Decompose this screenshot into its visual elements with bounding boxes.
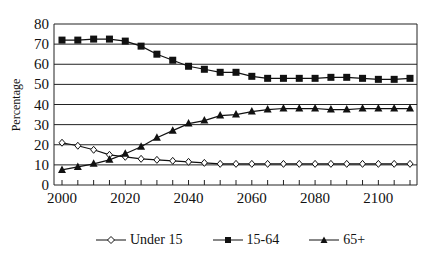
data-point [154, 156, 160, 163]
data-point [264, 75, 271, 82]
x-tick-label: 2080 [300, 190, 330, 206]
data-point [344, 160, 350, 167]
data-point [296, 160, 302, 167]
y-axis-tick-labels: 01020304050607080 [34, 16, 49, 193]
data-point [359, 104, 367, 112]
data-point [74, 37, 81, 44]
data-point [122, 38, 129, 45]
data-point [106, 36, 113, 43]
data-point [374, 104, 382, 112]
data-point [59, 37, 66, 44]
data-point [233, 69, 240, 76]
data-point [359, 75, 366, 82]
data-point [328, 160, 334, 167]
x-axis-tick-labels: 200020202040206020802100 [47, 190, 393, 206]
y-axis-title: Percentage [9, 79, 23, 132]
x-tick-label: 2040 [174, 190, 204, 206]
data-point [137, 142, 145, 150]
data-point [407, 75, 414, 82]
line-chart: 01020304050607080 2000202020402060208021… [0, 0, 432, 230]
y-tick-label: 30 [34, 117, 49, 133]
data-point [375, 160, 381, 167]
y-tick-label: 70 [34, 36, 49, 52]
data-point [296, 75, 303, 82]
data-point [407, 160, 413, 167]
legend-item-under-15: Under 15 [96, 232, 183, 248]
data-point [391, 160, 397, 167]
data-point [295, 104, 303, 112]
triangle-marker-icon [309, 235, 339, 245]
y-tick-label: 60 [34, 56, 49, 72]
data-point [138, 43, 145, 50]
data-point [217, 160, 223, 167]
square-marker-icon [213, 235, 243, 245]
legend-item-15-64: 15-64 [213, 232, 280, 248]
y-tick-label: 50 [34, 76, 49, 92]
data-point [186, 158, 192, 165]
y-tick-label: 40 [34, 97, 49, 113]
data-point [360, 160, 366, 167]
data-point [375, 76, 382, 83]
y-tick-label: 80 [34, 16, 49, 32]
data-point [391, 76, 398, 83]
data-point [265, 160, 271, 167]
legend-label: 15-64 [247, 232, 280, 248]
x-tick-label: 2100 [363, 190, 393, 206]
data-point [327, 74, 334, 81]
series-under-15 [59, 139, 413, 167]
x-tick-label: 2020 [110, 190, 140, 206]
data-point [201, 66, 208, 73]
data-point [280, 75, 287, 82]
data-point [280, 160, 286, 167]
gridlines [54, 24, 417, 165]
data-point [138, 155, 144, 162]
legend-item-65-plus: 65+ [309, 232, 365, 248]
y-tick-label: 20 [34, 137, 49, 153]
x-tick-label: 2060 [237, 190, 267, 206]
data-point [153, 51, 160, 58]
data-point [279, 104, 287, 112]
legend: Under 15 15-64 65+ [96, 232, 365, 248]
data-point [406, 104, 414, 112]
data-point [248, 73, 255, 80]
legend-label: 65+ [343, 232, 365, 248]
x-tick-label: 2000 [47, 190, 77, 206]
data-point [312, 75, 319, 82]
data-point [75, 142, 81, 149]
data-point [390, 104, 398, 112]
data-point [233, 160, 239, 167]
data-point [170, 157, 176, 164]
data-point [343, 74, 350, 81]
series-15-64 [59, 36, 414, 83]
legend-label: Under 15 [130, 232, 183, 248]
diamond-marker-icon [96, 235, 126, 245]
data-point [185, 63, 192, 70]
data-point [90, 36, 97, 43]
data-point [91, 146, 97, 153]
data-point [169, 57, 176, 64]
y-tick-label: 10 [34, 157, 49, 173]
data-point [311, 104, 319, 112]
data-point [249, 160, 255, 167]
data-point [312, 160, 318, 167]
data-point [217, 69, 224, 76]
